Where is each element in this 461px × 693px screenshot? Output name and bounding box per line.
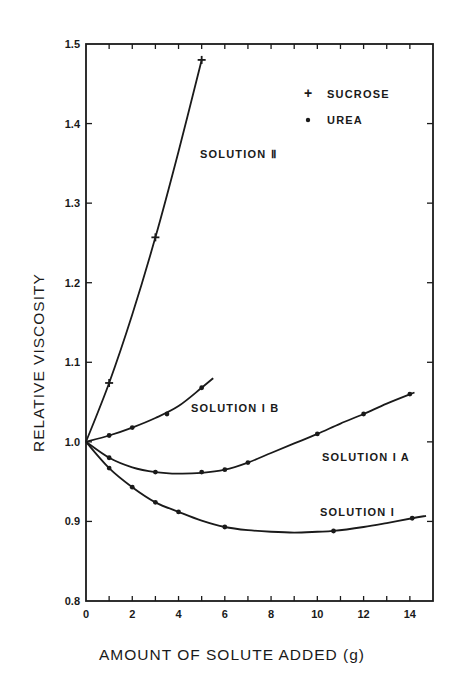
y-tick-label: 1.5 [65, 38, 80, 50]
legend-dot-icon [306, 118, 310, 122]
x-tick-label: 12 [357, 608, 369, 620]
dot-marker-icon [315, 432, 320, 437]
dot-marker-icon [331, 529, 336, 534]
dot-marker-icon [165, 412, 170, 417]
y-tick-label: 1.3 [65, 197, 80, 209]
x-axis-ticks: 02468101214 [83, 44, 417, 620]
dot-marker-icon [361, 412, 366, 417]
dot-marker-icon [222, 525, 227, 530]
dot-marker-icon [407, 392, 412, 397]
dot-marker-icon [153, 500, 158, 505]
x-tick-label: 2 [129, 608, 135, 620]
y-tick-label: 0.9 [65, 515, 80, 527]
legend-sucrose-label: SUCROSE [327, 88, 390, 100]
x-axis-title: AMOUNT OF SOLUTE ADDED (g) [99, 646, 365, 663]
y-tick-label: 1.1 [65, 356, 80, 368]
dot-marker-icon [107, 466, 112, 471]
y-axis-title: RELATIVE VISCOSITY [30, 273, 47, 452]
x-tick-label: 14 [404, 608, 417, 620]
dot-marker-icon [199, 470, 204, 475]
dot-marker-icon [176, 509, 181, 514]
legend: + SUCROSE UREA [304, 85, 390, 126]
dot-marker-icon [153, 470, 158, 475]
dot-marker-icon [130, 485, 135, 490]
y-tick-label: 1.2 [65, 277, 80, 289]
dot-marker-icon [410, 516, 415, 521]
legend-urea-label: UREA [327, 114, 363, 126]
dot-marker-icon [199, 385, 204, 390]
label-solution-ib: SOLUTION I B [191, 402, 279, 414]
label-solution-ia: SOLUTION I A [322, 451, 410, 463]
x-tick-label: 8 [268, 608, 274, 620]
x-tick-label: 0 [83, 608, 89, 620]
label-solution-ii: SOLUTION Ⅱ [200, 148, 277, 160]
dot-marker-icon [107, 455, 112, 460]
dot-marker-icon [222, 467, 227, 472]
label-solution-i: SOLUTION I [320, 506, 395, 518]
x-tick-label: 4 [175, 608, 182, 620]
viscosity-chart: 02468101214 0.80.91.01.11.21.31.41.5 + S… [0, 0, 461, 693]
dot-marker-icon [246, 460, 251, 465]
y-tick-label: 0.8 [65, 595, 80, 607]
series-curve [86, 60, 202, 442]
y-tick-label: 1.0 [65, 436, 80, 448]
y-tick-label: 1.4 [65, 118, 81, 130]
x-tick-label: 6 [222, 608, 228, 620]
x-tick-label: 10 [311, 608, 323, 620]
legend-plus-icon: + [304, 85, 312, 101]
dot-marker-icon [130, 425, 135, 430]
y-axis-ticks: 0.80.91.01.11.21.31.41.5 [65, 38, 433, 607]
dot-marker-icon [107, 433, 112, 438]
